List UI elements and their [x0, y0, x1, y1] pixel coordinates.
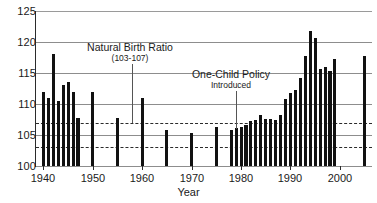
bar-1960 — [141, 98, 144, 166]
bar-1991 — [294, 90, 297, 166]
bar-1986 — [269, 119, 272, 166]
x-tick-1970 — [192, 166, 193, 170]
bar-1982 — [249, 121, 252, 166]
bar-1989 — [284, 99, 287, 166]
leader-line-one-child-policy — [236, 91, 237, 129]
bar-1975 — [215, 127, 218, 166]
y-tick-label-125: 125 — [4, 6, 36, 17]
bar-1941 — [47, 98, 50, 166]
bar-1965 — [165, 130, 168, 166]
bar-1994 — [309, 31, 312, 166]
bar-1985 — [264, 119, 267, 166]
bar-1997 — [324, 67, 327, 166]
x-tick-2000 — [340, 166, 341, 170]
bar-1984 — [259, 115, 262, 166]
bar-1996 — [319, 69, 322, 166]
x-tick-label-1960: 1960 — [119, 172, 165, 184]
annotation-natural-birth-ratio-range: (103-107) — [75, 53, 185, 64]
x-tick-label-1950: 1950 — [70, 172, 116, 184]
annotation-natural-birth-ratio: Natural Birth Ratio (103-107) — [75, 42, 185, 64]
x-tick-1990 — [290, 166, 291, 170]
leader-line-natural-birth-ratio — [132, 64, 133, 123]
bar-1942 — [52, 54, 55, 166]
x-tick-1940 — [43, 166, 44, 170]
bar-1947 — [76, 118, 79, 166]
bar-1980 — [240, 127, 243, 166]
y-tick-label-100: 100 — [4, 161, 36, 172]
bar-1992 — [299, 78, 302, 166]
bar-1999 — [333, 59, 336, 166]
bar-1943 — [57, 101, 60, 166]
birth-ratio-chart: 100105110115120125 194019501960197019801… — [0, 0, 377, 203]
x-tick-label-2000: 2000 — [317, 172, 363, 184]
bar-1990 — [289, 93, 292, 166]
y-tick-label-105: 105 — [4, 130, 36, 141]
bar-1995 — [314, 38, 317, 166]
y-tick-label-110: 110 — [4, 99, 36, 110]
annotation-natural-birth-ratio-title: Natural Birth Ratio — [75, 42, 185, 53]
x-tick-1950 — [93, 166, 94, 170]
annotation-one-child-policy-subtitle: Introduced — [178, 80, 284, 91]
bar-1998 — [328, 71, 331, 166]
bar-1979 — [235, 128, 238, 166]
bar-1940 — [42, 92, 45, 166]
bar-1946 — [72, 92, 75, 166]
bar-2005 — [363, 56, 366, 166]
annotation-one-child-policy-title: One-Child Policy — [178, 69, 284, 80]
bar-1955 — [116, 118, 119, 166]
bar-1987 — [274, 120, 277, 166]
bar-1983 — [254, 120, 257, 167]
x-tick-1980 — [241, 166, 242, 170]
bar-1981 — [244, 125, 247, 166]
x-tick-label-1980: 1980 — [218, 172, 264, 184]
bar-1988 — [279, 115, 282, 166]
y-tick-label-115: 115 — [4, 68, 36, 79]
bar-1970 — [190, 133, 193, 166]
y-tick-label-120: 120 — [4, 37, 36, 48]
x-tick-label-1940: 1940 — [20, 172, 66, 184]
x-tick-label-1970: 1970 — [169, 172, 215, 184]
x-tick-label-1990: 1990 — [267, 172, 313, 184]
bar-1993 — [304, 56, 307, 166]
bar-1944 — [62, 85, 65, 166]
bar-1950 — [91, 92, 94, 166]
x-axis-title: Year — [0, 186, 377, 198]
annotation-one-child-policy: One-Child Policy Introduced — [178, 69, 284, 91]
bar-1945 — [67, 82, 70, 166]
bar-1978 — [230, 130, 233, 166]
gridline-100 — [36, 166, 372, 167]
x-tick-1960 — [142, 166, 143, 170]
